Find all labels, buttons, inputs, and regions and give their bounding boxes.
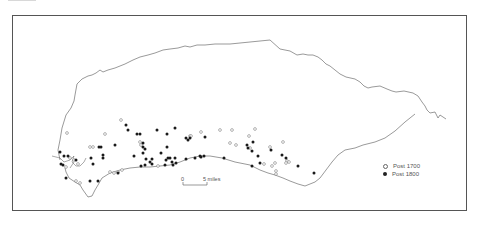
post-1700-marker (113, 172, 116, 175)
legend-item-post-1700: Post 1700 (383, 162, 420, 170)
post-1700-marker (275, 170, 278, 173)
post-1800-marker (297, 165, 300, 168)
post-1700-marker (235, 144, 238, 147)
filled-circle-icon (383, 172, 387, 176)
post-1800-marker (199, 155, 202, 158)
post-1800-marker (166, 146, 169, 149)
post-1700-marker (75, 180, 78, 183)
post-1800-marker (151, 158, 154, 161)
scale-start-label: 0 (181, 176, 184, 182)
map-canvas (0, 0, 480, 229)
post-1800-marker (75, 159, 78, 162)
post-1800-marker (174, 157, 177, 160)
legend: Post 1700 Post 1800 (383, 162, 420, 178)
post-1700-marker (65, 166, 68, 169)
post-1700-marker (104, 133, 107, 136)
post-1800-marker (285, 157, 288, 160)
post-1700-marker (157, 165, 160, 168)
post-1800-marker (164, 164, 167, 167)
post-1700-marker (254, 128, 257, 131)
post-1800-marker (169, 157, 172, 160)
post-1800-marker (144, 148, 147, 151)
post-1700-marker (263, 163, 266, 166)
post-1800-marker (102, 154, 105, 157)
post-1700-marker (282, 141, 285, 144)
post-1700-marker (269, 146, 272, 149)
post-1800-marker (166, 133, 169, 136)
post-1800-marker (251, 165, 254, 168)
post-1800-marker (139, 133, 142, 136)
post-1800-marker (140, 165, 143, 168)
post-1800-marker (175, 162, 178, 165)
legend-label: Post 1700 (393, 162, 420, 170)
south-coast (65, 114, 415, 197)
post-1700-points (65, 119, 291, 185)
post-1800-marker (145, 158, 148, 161)
post-1800-marker (270, 149, 273, 152)
post-1700-marker (288, 161, 291, 164)
post-1700-marker (139, 141, 142, 144)
post-1800-marker (247, 147, 250, 150)
post-1800-marker (117, 172, 120, 175)
post-1800-marker (59, 151, 62, 154)
post-1800-marker (136, 133, 139, 136)
post-1800-marker (257, 155, 260, 158)
post-1800-marker (313, 172, 316, 175)
post-1800-marker (204, 136, 207, 139)
post-1800-marker (189, 137, 192, 140)
post-1700-marker (275, 173, 278, 176)
post-1700-marker (79, 182, 82, 185)
post-1800-marker (114, 144, 117, 147)
post-1800-marker (142, 142, 145, 145)
post-1700-marker (66, 132, 69, 135)
post-1800-marker (172, 164, 175, 167)
post-1700-marker (121, 169, 124, 172)
post-1700-marker (274, 162, 277, 165)
post-1800-marker (251, 150, 254, 153)
post-1800-marker (89, 180, 92, 183)
post-1700-marker (231, 129, 234, 132)
open-circle-icon (383, 164, 388, 169)
legend-label: Post 1800 (392, 170, 419, 178)
post-1800-marker (174, 127, 177, 130)
post-1800-marker (102, 157, 105, 160)
post-1700-marker (92, 146, 95, 149)
post-1700-marker (120, 119, 123, 122)
post-1800-marker (185, 158, 188, 161)
post-1800-marker (92, 163, 95, 166)
post-1800-marker (97, 180, 100, 183)
post-1800-marker (62, 164, 65, 167)
post-1800-marker (144, 164, 147, 167)
post-1800-marker (259, 162, 262, 165)
post-1700-marker (89, 146, 92, 149)
post-1700-marker (200, 131, 203, 134)
scale-end-label: 5 miles (203, 176, 220, 182)
post-1800-marker (125, 124, 128, 127)
post-1800-marker (127, 129, 130, 132)
post-1700-marker (77, 163, 80, 166)
post-1800-marker (246, 144, 249, 147)
post-1800-marker (133, 155, 136, 158)
legend-item-post-1800: Post 1800 (383, 170, 420, 178)
post-1800-marker (142, 152, 145, 155)
post-1800-marker (100, 146, 103, 149)
post-1700-marker (109, 171, 112, 174)
post-1700-marker (285, 162, 288, 165)
post-1700-marker (271, 165, 274, 168)
post-1700-marker (219, 129, 222, 132)
post-1800-marker (160, 152, 163, 155)
post-1800-marker (171, 161, 174, 164)
post-1800-marker (151, 163, 154, 166)
post-1700-marker (248, 135, 251, 138)
post-1800-marker (67, 155, 70, 158)
post-1800-marker (65, 177, 68, 180)
post-1800-marker (90, 157, 93, 160)
post-1800-marker (63, 155, 66, 158)
post-1800-marker (156, 129, 159, 132)
post-1800-marker (194, 157, 197, 160)
post-1700-marker (229, 142, 232, 145)
post-1800-marker (281, 154, 284, 157)
post-1800-marker (223, 157, 226, 160)
post-1800-marker (252, 141, 255, 144)
post-1800-marker (203, 155, 206, 158)
